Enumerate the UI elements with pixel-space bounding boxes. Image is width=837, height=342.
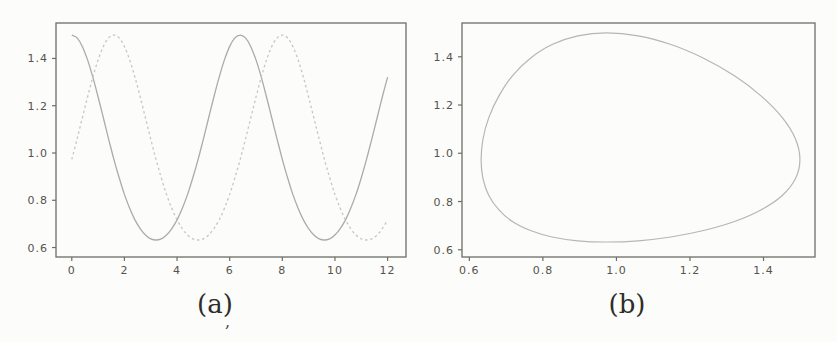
x-tick-label: 0.6: [459, 264, 480, 277]
x-tick-label: 10: [327, 264, 343, 277]
y-tick-label: 1.2: [28, 100, 49, 113]
x-tick-label: 12: [380, 264, 396, 277]
x-tick-label: 4: [173, 264, 181, 277]
curve-dashed-curve-a: [72, 35, 388, 240]
y-tick-label: 1.0: [28, 147, 49, 160]
x-tick-label: 0: [68, 264, 76, 277]
y-tick-label: 0.6: [28, 242, 49, 255]
figure-panel: 0246810120.60.81.01.21.40.60.81.01.21.40…: [0, 0, 837, 342]
x-tick-label: 0.8: [533, 264, 554, 277]
x-tick-label: 1.2: [680, 264, 701, 277]
x-tick-label: 6: [226, 264, 234, 277]
plot-b-caption: (b): [450, 291, 804, 317]
y-tick-label: 1.4: [434, 51, 455, 64]
x-tick-label: 2: [120, 264, 128, 277]
x-tick-label: 1.0: [606, 264, 627, 277]
plot-frame-b: [462, 23, 815, 257]
y-tick-label: 1.4: [28, 52, 49, 65]
plot-a-caption: (a): [40, 291, 390, 317]
x-tick-label: 8: [278, 264, 286, 277]
y-tick-label: 0.8: [28, 194, 49, 207]
y-tick-label: 0.6: [434, 244, 455, 257]
scan-artifact-mark: ,: [225, 312, 230, 331]
x-tick-label: 1.4: [753, 264, 774, 277]
y-tick-label: 0.8: [434, 196, 455, 209]
curve-closed-orbit-b: [481, 33, 800, 242]
y-tick-label: 1.0: [434, 147, 455, 160]
y-tick-label: 1.2: [434, 99, 455, 112]
